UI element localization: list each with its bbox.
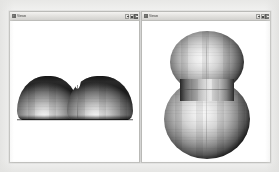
window-left[interactable]: Viewer bbox=[9, 11, 140, 163]
page-root: Viewer bbox=[0, 0, 279, 172]
window-right-title: Viewer bbox=[149, 14, 158, 19]
close-button[interactable] bbox=[265, 14, 269, 19]
top-view-canvas[interactable] bbox=[142, 21, 270, 161]
app-window-icon bbox=[12, 14, 16, 18]
window-right-titlebar[interactable]: Viewer bbox=[142, 12, 270, 21]
side-view-canvas[interactable] bbox=[10, 21, 139, 161]
surface-center-seam bbox=[206, 35, 207, 155]
close-button[interactable] bbox=[134, 14, 138, 19]
window-right[interactable]: Viewer bbox=[141, 11, 271, 163]
maximize-button[interactable] bbox=[130, 14, 134, 19]
minimize-button[interactable] bbox=[256, 14, 260, 19]
window-right-controls bbox=[256, 13, 269, 19]
window-left-titlebar[interactable]: Viewer bbox=[10, 12, 139, 21]
dumbbell-surface-top-view bbox=[164, 31, 250, 159]
surface-base-edge bbox=[17, 119, 133, 121]
window-left-title: Viewer bbox=[17, 14, 26, 19]
maximize-button[interactable] bbox=[261, 14, 265, 19]
app-window-icon bbox=[144, 14, 148, 18]
minimize-button[interactable] bbox=[125, 14, 129, 19]
lobe-junction-seam bbox=[77, 85, 78, 119]
dumbbell-surface-side-view bbox=[17, 76, 133, 120]
lobe-top-rim-shadow bbox=[17, 76, 79, 89]
window-left-controls bbox=[125, 13, 138, 19]
